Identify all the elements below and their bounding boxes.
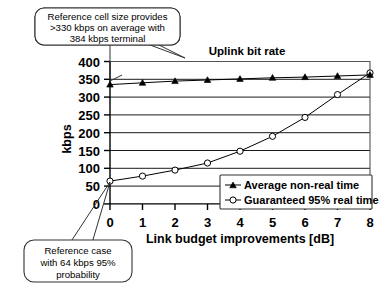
legend-label-average: Average non-real time xyxy=(244,179,359,191)
x-tick-label-2: 2 xyxy=(171,215,178,230)
data-point-guaranteed-3 xyxy=(204,160,210,166)
chart-figure: 400 350 300 250 200 150 100 50 0 0 1 2 3… xyxy=(0,0,385,297)
y-tick-label-400: 400 xyxy=(78,55,100,70)
chart-legend: Average non-real time Guaranteed 95% rea… xyxy=(220,175,379,209)
x-tick-label-6: 6 xyxy=(301,215,308,230)
data-point-guaranteed-4 xyxy=(237,148,243,154)
x-tick-label-0: 0 xyxy=(106,215,113,230)
bottom-callout-line-3: probability xyxy=(56,269,100,280)
y-tick-labels: 400 350 300 250 200 150 100 50 0 xyxy=(78,55,100,212)
data-point-guaranteed-2 xyxy=(172,167,178,173)
legend-label-guaranteed: Guaranteed 95% real time xyxy=(244,194,379,206)
y-tick-label-300: 300 xyxy=(78,90,100,105)
y-tick-label-250: 250 xyxy=(78,108,100,123)
y-tick-label-150: 150 xyxy=(78,144,100,159)
bottom-callout-line-2: with 64 kbps 95% xyxy=(39,257,116,268)
y-tick-label-50: 50 xyxy=(86,179,100,194)
y-tick-label-200: 200 xyxy=(78,126,100,141)
bottom-callout-line-1: Reference case xyxy=(44,245,111,256)
x-axis-title: Link budget improvements [dB] xyxy=(146,232,334,246)
x-tick-label-3: 3 xyxy=(204,215,211,230)
top-callout-pointer xyxy=(110,45,122,82)
data-point-guaranteed-6 xyxy=(302,114,308,120)
series-line-guaranteed xyxy=(110,73,370,181)
data-point-guaranteed-7 xyxy=(334,92,340,98)
data-point-guaranteed-5 xyxy=(269,133,275,139)
annotation-bottom-callout: Reference case with 64 kbps 95% probabil… xyxy=(24,182,132,282)
x-tick-label-1: 1 xyxy=(139,215,146,230)
annotation-top-callout: Reference cell size provides >330 kbps o… xyxy=(35,8,185,81)
x-tick-label-5: 5 xyxy=(269,215,276,230)
x-tick-label-4: 4 xyxy=(236,215,244,230)
series-guaranteed-95-real-time xyxy=(107,70,373,184)
legend-marker-circle-icon xyxy=(230,197,236,203)
top-callout-text-2: >330 kbps on average with xyxy=(50,22,165,33)
chart-title: Uplink bit rate xyxy=(209,45,286,57)
top-callout-text-1: Reference cell size provides xyxy=(48,11,168,22)
data-point-guaranteed-1 xyxy=(139,173,145,179)
y-axis-title: kbps xyxy=(60,124,74,153)
y-tick-label-350: 350 xyxy=(78,72,100,87)
y-tick-label-100: 100 xyxy=(78,161,100,176)
x-tick-label-8: 8 xyxy=(366,215,373,230)
x-tick-labels: 0 1 2 3 4 5 6 7 8 xyxy=(106,215,373,230)
x-tick-label-7: 7 xyxy=(334,215,341,230)
uplink-bit-rate-chart: 400 350 300 250 200 150 100 50 0 0 1 2 3… xyxy=(0,0,385,297)
top-callout-text-3: 384 kbps terminal xyxy=(70,33,146,44)
